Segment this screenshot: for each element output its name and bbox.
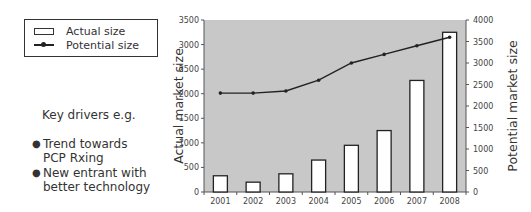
bar-actual-size bbox=[377, 131, 391, 192]
y-tick-label: 0 bbox=[194, 188, 199, 197]
bar-actual-size bbox=[279, 174, 293, 192]
x-tick-label: 2002 bbox=[243, 197, 263, 206]
line-marker bbox=[317, 78, 321, 82]
y-tick-label: 3500 bbox=[179, 16, 199, 25]
x-tick-label: 2006 bbox=[374, 197, 394, 206]
y2-tick-label: 0 bbox=[473, 188, 478, 197]
y-tick-label: 500 bbox=[184, 163, 199, 172]
market-size-chart: 0500100015002000250030003500050010001500… bbox=[0, 0, 531, 212]
y2-axis-label: Potential market size bbox=[505, 40, 520, 172]
bar-actual-size bbox=[410, 80, 424, 192]
line-marker bbox=[448, 35, 452, 39]
bar-actual-size bbox=[213, 176, 227, 192]
y2-tick-label: 2000 bbox=[473, 102, 493, 111]
x-tick-label: 2004 bbox=[308, 197, 328, 206]
y2-tick-label: 3500 bbox=[473, 38, 493, 47]
line-marker bbox=[284, 89, 288, 93]
y2-tick-label: 1000 bbox=[473, 145, 493, 154]
line-marker bbox=[382, 53, 386, 57]
line-marker bbox=[350, 61, 354, 65]
y2-tick-label: 1500 bbox=[473, 124, 493, 133]
bar-actual-size bbox=[443, 32, 457, 192]
x-tick-label: 2007 bbox=[407, 197, 427, 206]
x-tick-label: 2001 bbox=[210, 197, 230, 206]
x-tick-label: 2005 bbox=[341, 197, 361, 206]
line-marker bbox=[251, 91, 255, 95]
x-tick-label: 2008 bbox=[439, 197, 459, 206]
line-marker bbox=[415, 44, 419, 48]
x-tick-label: 2003 bbox=[276, 197, 296, 206]
plot-background bbox=[204, 20, 466, 192]
y-axis-label: Actual market size bbox=[171, 48, 186, 164]
y2-tick-label: 500 bbox=[473, 167, 488, 176]
bar-actual-size bbox=[344, 145, 358, 192]
plot-area: 0500100015002000250030003500050010001500… bbox=[179, 16, 494, 206]
y2-tick-label: 3000 bbox=[473, 59, 493, 68]
bar-actual-size bbox=[246, 182, 260, 192]
line-marker bbox=[219, 91, 223, 95]
y2-tick-label: 4000 bbox=[473, 16, 493, 25]
bar-actual-size bbox=[312, 160, 326, 192]
y2-tick-label: 2500 bbox=[473, 81, 493, 90]
